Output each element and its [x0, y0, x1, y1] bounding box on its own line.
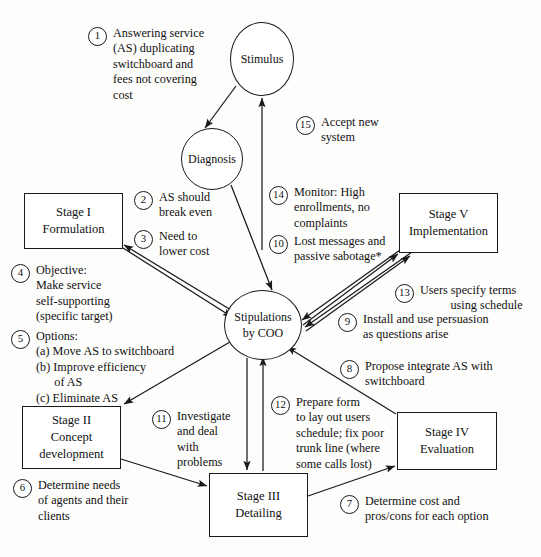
annotation-12-number: 12: [271, 396, 290, 415]
node-stage-ii-concept-development[interactable]: Stage II Concept development: [22, 406, 121, 469]
annotation-1-number: 1: [88, 27, 107, 46]
node-stimulus-line-0: Stimulus: [241, 51, 284, 67]
annotation-12-text: Prepare form to lay out users schedule; …: [296, 395, 384, 472]
annotation-7[interactable]: 7 Determine cost and pros/cons for each …: [340, 494, 489, 525]
annotation-3[interactable]: 3 Need to lower cost: [134, 229, 209, 260]
annotation-10-text: Lost messages and passive sabotage*: [294, 234, 385, 265]
annotation-1-text: Answering service (AS) duplicating switc…: [113, 26, 204, 103]
node-stage2-line-2: development: [39, 446, 104, 463]
annotation-2-text: AS should break even: [159, 190, 212, 221]
annotation-13[interactable]: 13 Users specify terms using schedule: [395, 283, 523, 314]
annotation-15[interactable]: 15 Accept new system: [296, 115, 379, 146]
annotation-3-text: Need to lower cost: [159, 229, 209, 260]
annotation-5[interactable]: 5 Options: (a) Move AS to switchboard (b…: [11, 329, 174, 406]
annotation-5-number: 5: [11, 330, 30, 349]
annotation-7-number: 7: [340, 495, 359, 514]
node-stage3-line-1: Detailing: [235, 505, 282, 522]
node-stipulations-line-0: Stipulations: [234, 309, 291, 325]
node-stage-iv-evaluation[interactable]: Stage IV Evaluation: [397, 412, 497, 470]
node-stimulus[interactable]: Stimulus: [230, 22, 294, 96]
annotation-4[interactable]: 4 Objective: Make service self-supportin…: [11, 263, 113, 325]
annotation-9-text: Install and use persuasion as questions …: [363, 312, 489, 343]
node-diagnosis-line-0: Diagnosis: [188, 151, 236, 167]
node-stipulations-line-1: by COO: [243, 325, 283, 341]
node-stage3-line-0: Stage III: [237, 488, 280, 505]
process-flow-diagram: Stimulus Diagnosis Stipulations by COO S…: [0, 0, 541, 557]
node-diagnosis[interactable]: Diagnosis: [181, 128, 243, 190]
annotation-9[interactable]: 9 Install and use persuasion as question…: [338, 312, 489, 343]
annotation-10-number: 10: [269, 235, 288, 254]
annotation-11[interactable]: 11 Investigate and deal with problems: [152, 409, 230, 471]
node-stage4-line-0: Stage IV: [425, 424, 469, 441]
annotation-2-number: 2: [134, 191, 153, 210]
node-stage-i-formulation[interactable]: Stage I Formulation: [24, 193, 123, 249]
annotation-11-text: Investigate and deal with problems: [177, 409, 230, 471]
annotation-12[interactable]: 12 Prepare form to lay out users schedul…: [271, 395, 384, 472]
annotation-14-number: 14: [269, 186, 288, 205]
annotation-9-number: 9: [338, 313, 357, 332]
node-stage1-line-1: Formulation: [43, 221, 105, 238]
annotation-14[interactable]: 14 Monitor: High enrollments, no complai…: [269, 185, 370, 231]
node-stage5-line-0: Stage V: [429, 206, 469, 223]
annotation-1[interactable]: 1 Answering service (AS) duplicating swi…: [88, 26, 204, 103]
edge-stimulus-to-diagnosis: [205, 86, 236, 128]
node-stage2-line-1: Concept: [51, 429, 93, 446]
annotation-2[interactable]: 2 AS should break even: [134, 190, 212, 221]
annotation-14-text: Monitor: High enrollments, no complaints: [294, 185, 370, 231]
annotation-10[interactable]: 10 Lost messages and passive sabotage*: [269, 234, 385, 265]
annotation-8-number: 8: [340, 360, 359, 379]
node-stage4-line-1: Evaluation: [420, 441, 474, 458]
annotation-11-number: 11: [152, 410, 171, 429]
annotation-7-text: Determine cost and pros/cons for each op…: [365, 494, 489, 525]
node-stage1-line-0: Stage I: [56, 204, 91, 221]
annotation-13-number: 13: [395, 284, 414, 303]
annotation-6[interactable]: 6 Determine needs of agents and their cl…: [13, 478, 128, 524]
annotation-15-number: 15: [296, 116, 315, 135]
node-stage-v-implementation[interactable]: Stage V Implementation: [399, 193, 498, 253]
annotation-8-text: Propose integrate AS with switchboard: [365, 359, 493, 390]
annotation-6-text: Determine needs of agents and their clie…: [38, 478, 128, 524]
annotation-5-text: Options: (a) Move AS to switchboard (b) …: [36, 329, 174, 406]
node-stage2-line-0: Stage II: [52, 412, 91, 429]
node-stage-iii-detailing[interactable]: Stage III Detailing: [209, 473, 308, 537]
annotation-3-number: 3: [134, 230, 153, 249]
node-stage5-line-1: Implementation: [409, 223, 488, 240]
edge-diagnosis-to-stipulations: [231, 185, 272, 290]
annotation-4-text: Objective: Make service self-supporting …: [36, 263, 113, 325]
annotation-6-number: 6: [13, 479, 32, 498]
annotation-15-text: Accept new system: [321, 115, 379, 146]
annotation-8[interactable]: 8 Propose integrate AS with switchboard: [340, 359, 493, 390]
annotation-13-text: Users specify terms using schedule: [420, 283, 523, 314]
node-stipulations-by-coo[interactable]: Stipulations by COO: [224, 290, 302, 360]
annotation-4-number: 4: [11, 264, 30, 283]
